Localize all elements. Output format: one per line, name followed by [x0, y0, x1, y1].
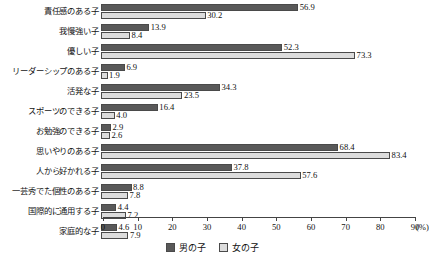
category-label: 国際的に通用する子 — [0, 208, 101, 217]
bar-value-label: 7.8 — [128, 191, 140, 200]
x-axis-unit-label: (%) — [416, 222, 429, 232]
legend-swatch-boys — [166, 243, 175, 252]
legend-item-girls[interactable]: 女の子 — [219, 241, 259, 254]
chart-row: お勉強のできる子2.92.6 — [0, 122, 425, 142]
x-axis-tick — [103, 217, 104, 221]
bar-girls — [101, 112, 115, 119]
bar-group: 37.857.6 — [101, 162, 423, 182]
bar-group: 52.373.3 — [101, 42, 423, 62]
bar-value-label: 16.4 — [158, 103, 175, 112]
bar-value-label: 73.3 — [355, 51, 372, 60]
chart-row: スポーツのできる子16.44.0 — [0, 102, 425, 122]
bar-girls — [101, 172, 301, 179]
bar-group: 6.91.9 — [101, 62, 423, 82]
bar-girls — [101, 232, 128, 239]
bar-group: 13.98.4 — [101, 22, 423, 42]
bar-value-label: 30.2 — [206, 11, 223, 20]
chart-row: 家庭的な子4.67.9 — [0, 222, 425, 242]
bar-group: 16.44.0 — [101, 102, 423, 122]
legend-label: 男の子 — [179, 241, 206, 254]
category-label: 活発な子 — [0, 88, 101, 97]
bar-girls — [101, 132, 110, 139]
bar-group: 34.323.5 — [101, 82, 423, 102]
bar-value-label: 23.5 — [182, 91, 199, 100]
bar-value-label: 56.9 — [298, 3, 315, 12]
chart-row: リーダーシップのある子6.91.9 — [0, 62, 425, 82]
chart-row: 人から好かれる子37.857.6 — [0, 162, 425, 182]
legend-label: 女の子 — [232, 241, 259, 254]
chart-row: 活発な子34.323.5 — [0, 82, 425, 102]
bar-group: 2.92.6 — [101, 122, 423, 142]
x-axis-tick-label: 20 — [168, 222, 177, 232]
chart-row: 優しい子52.373.3 — [0, 42, 425, 62]
x-axis-tick-label: 30 — [203, 222, 212, 232]
bar-value-label: 4.6 — [117, 223, 129, 232]
x-axis-tick — [207, 217, 208, 221]
category-label: 我慢強い子 — [0, 28, 101, 37]
bar-girls — [101, 12, 206, 19]
x-axis-tick-label: 50 — [272, 222, 281, 232]
bar-value-label: 2.6 — [110, 131, 122, 140]
bar-boys — [101, 84, 220, 91]
chart-row: 我慢強い子13.98.4 — [0, 22, 425, 42]
x-axis-tick — [138, 217, 139, 221]
x-axis-tick-label: 70 — [341, 222, 350, 232]
category-label: 優しい子 — [0, 48, 101, 57]
category-label: スポーツのできる子 — [0, 108, 101, 117]
chart-legend: 男の子女の子 — [0, 241, 425, 254]
category-label: リーダーシップのある子 — [0, 68, 101, 77]
category-label: 責任感のある子 — [0, 8, 101, 17]
bar-group: 68.483.4 — [101, 142, 423, 162]
bar-group: 4.67.9 — [101, 222, 423, 242]
x-axis-tick-label: 0 — [101, 222, 105, 232]
category-label: 人から好かれる子 — [0, 168, 101, 177]
bar-boys — [101, 144, 338, 151]
chart-row: 思いやりのある子68.483.4 — [0, 142, 425, 162]
bar-group: 4.47.2 — [101, 202, 423, 222]
bar-girls — [101, 52, 355, 59]
bar-value-label: 52.3 — [282, 43, 299, 52]
bar-boys — [101, 184, 132, 191]
category-label: お勉強のできる子 — [0, 128, 101, 137]
category-label: 家庭的な子 — [0, 228, 101, 237]
x-axis: 0102030405060708090 — [103, 217, 415, 218]
bar-boys — [101, 104, 158, 111]
x-axis-tick — [311, 217, 312, 221]
bar-group: 8.87.8 — [101, 182, 423, 202]
bar-boys — [101, 4, 298, 11]
bar-value-label: 7.2 — [126, 211, 138, 220]
x-axis-tick — [242, 217, 243, 221]
chart-row: 責任感のある子56.930.2 — [0, 2, 425, 22]
bar-value-label: 34.3 — [220, 83, 237, 92]
bar-value-label: 57.6 — [301, 171, 318, 180]
bar-value-label: 7.9 — [128, 231, 140, 240]
x-axis-tick — [172, 217, 173, 221]
bar-girls — [101, 92, 182, 99]
bar-value-label: 6.9 — [125, 63, 137, 72]
bar-girls — [101, 152, 390, 159]
chart-row: 一芸秀でた個性のある子8.87.8 — [0, 182, 425, 202]
bar-boys — [101, 164, 232, 171]
x-axis-tick-label: 40 — [237, 222, 246, 232]
x-axis-tick — [415, 217, 416, 221]
category-label: 思いやりのある子 — [0, 148, 101, 157]
bar-value-label: 37.8 — [232, 163, 249, 172]
bar-value-label: 8.4 — [130, 31, 142, 40]
bar-group: 56.930.2 — [101, 2, 423, 22]
bar-girls — [101, 192, 128, 199]
chart-row: 国際的に通用する子4.47.2 — [0, 202, 425, 222]
category-label: 一芸秀でた個性のある子 — [0, 188, 101, 197]
plot-area: 責任感のある子56.930.2我慢強い子13.98.4優しい子52.373.3リ… — [0, 2, 425, 217]
legend-item-boys[interactable]: 男の子 — [166, 241, 206, 254]
bar-value-label: 83.4 — [390, 151, 407, 160]
x-axis-tick — [380, 217, 381, 221]
bar-girls — [101, 32, 130, 39]
x-axis-tick — [276, 217, 277, 221]
bar-value-label: 4.0 — [115, 111, 127, 120]
bar-boys — [101, 124, 111, 131]
bar-value-label: 1.9 — [108, 71, 120, 80]
x-axis-tick-label: 80 — [376, 222, 385, 232]
bar-boys — [101, 44, 282, 51]
bar-value-label: 13.9 — [149, 23, 166, 32]
